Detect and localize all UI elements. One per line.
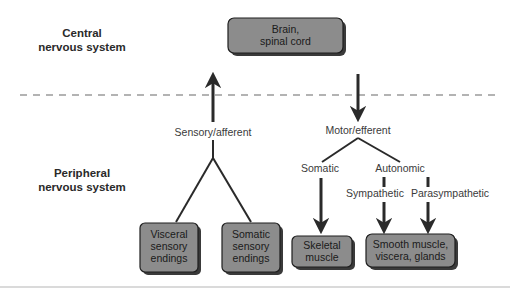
sensory-afferent-pathway: Sensory/afferent [175, 80, 252, 222]
central-nervous-system-label: Central nervous system [38, 27, 126, 53]
svg-text:Skeletal: Skeletal [303, 239, 340, 251]
nervous-system-diagram: Central nervous system Peripheral nervou… [0, 0, 510, 293]
peripheral-nervous-system-label: Peripheral nervous system [38, 167, 126, 193]
autonomic-branch: Autonomic Sympathetic Parasympathetic [346, 162, 489, 226]
svg-text:viscera, glands: viscera, glands [375, 250, 445, 262]
svg-text:Central: Central [62, 27, 102, 39]
svg-text:Smooth muscle,: Smooth muscle, [373, 238, 448, 250]
svg-text:Motor/efferent: Motor/efferent [325, 124, 390, 136]
somatic-sensory-endings-box: Somatic sensory endings [222, 223, 283, 275]
svg-text:Somatic: Somatic [232, 228, 270, 240]
svg-text:Somatic: Somatic [301, 162, 339, 174]
smooth-muscle-viscera-glands-box: Smooth muscle, viscera, glands [366, 234, 458, 270]
skeletal-muscle-box: Skeletal muscle [292, 236, 355, 270]
svg-text:Visceral: Visceral [150, 228, 187, 240]
somatic-branch: Somatic [301, 162, 339, 226]
sympathetic-label: Sympathetic [346, 187, 404, 199]
svg-text:sensory: sensory [151, 240, 189, 252]
svg-text:endings: endings [233, 252, 270, 264]
svg-text:sensory: sensory [233, 240, 271, 252]
parasympathetic-label: Parasympathetic [411, 187, 489, 199]
svg-text:spinal cord: spinal cord [260, 35, 311, 47]
brain-spinal-cord-box: Brain, spinal cord [228, 18, 346, 56]
svg-text:Autonomic: Autonomic [375, 162, 425, 174]
svg-text:muscle: muscle [305, 251, 338, 263]
svg-text:endings: endings [151, 252, 188, 264]
svg-text:Brain,: Brain, [272, 23, 299, 35]
svg-text:Sensory/afferent: Sensory/afferent [175, 126, 252, 138]
motor-efferent-pathway: Motor/efferent [322, 74, 400, 162]
svg-text:nervous system: nervous system [38, 41, 126, 53]
svg-text:nervous system: nervous system [38, 181, 126, 193]
svg-text:Peripheral: Peripheral [54, 167, 110, 179]
visceral-sensory-endings-box: Visceral sensory endings [140, 223, 201, 275]
